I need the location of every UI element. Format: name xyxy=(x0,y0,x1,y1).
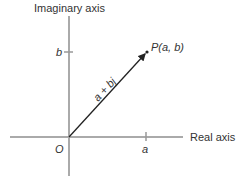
origin-label: O xyxy=(55,143,64,155)
real-axis-label: Real axis xyxy=(190,131,236,143)
point-p-label: P(a, b) xyxy=(151,41,184,53)
point-p xyxy=(145,50,148,53)
vector-a-plus-bj xyxy=(69,54,145,137)
tick-b-label: b xyxy=(56,46,62,58)
imaginary-axis-label: Imaginary axis xyxy=(34,2,105,14)
complex-plane-diagram: Imaginary axis Real axis O b a P(a, b) a… xyxy=(0,0,236,193)
tick-a-label: a xyxy=(142,143,148,155)
